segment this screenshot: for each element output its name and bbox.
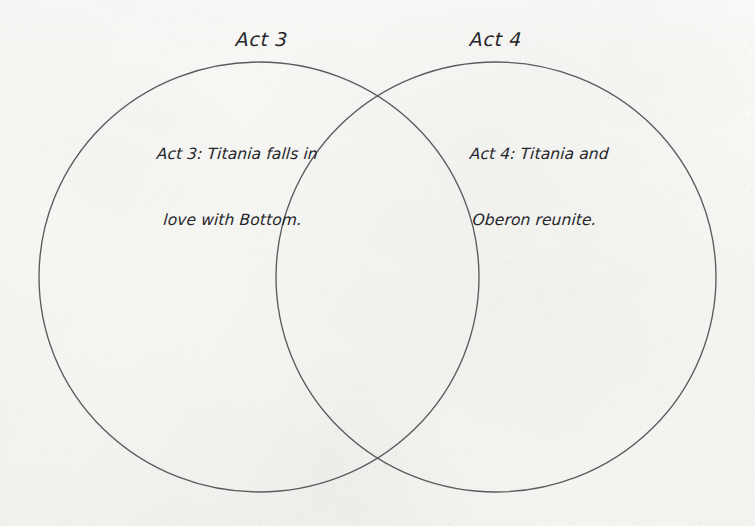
venn-text-right-set: Act 4: Titania and Oberon reunite.: [431, 99, 643, 275]
venn-text-right-line-2: Oberon reunite.: [434, 209, 636, 231]
venn-label-right-title: Act 4: [395, 28, 596, 50]
venn-text-right-line-1: Act 4: Titania and: [439, 143, 641, 165]
venn-diagram-canvas: Act 3 Act 4 Act 3: Titania falls in love…: [0, 0, 755, 526]
venn-text-left-set: Act 3: Titania falls in love with Bottom…: [118, 99, 352, 275]
venn-label-left-title: Act 3: [161, 28, 362, 50]
venn-circles-group: [0, 0, 755, 526]
venn-text-left-line-2: love with Bottom.: [121, 209, 345, 231]
venn-text-left-line-1: Act 3: Titania falls in: [126, 143, 350, 165]
